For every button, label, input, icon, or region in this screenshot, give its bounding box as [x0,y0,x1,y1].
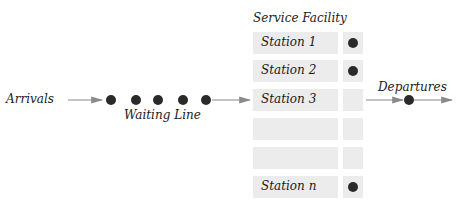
queue-customer-dot [201,95,211,105]
station-box: Station 3 [253,89,338,111]
busy-dot [348,182,358,192]
station-indicator [343,32,363,54]
station-label: Station 3 [261,92,316,106]
queue-customer-dot [106,95,116,105]
station-box [253,147,338,169]
station-label: Station n [261,179,316,193]
station-indicator [343,60,363,82]
waiting-line-label: Waiting Line [124,108,201,122]
service-facility-title: Service Facility [253,11,347,25]
queue-customer-dot [131,95,141,105]
station-indicator [343,147,363,169]
queue-customer-dot [178,95,188,105]
station-indicator [343,176,363,198]
station-indicator [343,89,363,111]
station-box: Station 2 [253,60,338,82]
departing-customer-dot [404,95,414,105]
busy-dot [348,66,358,76]
station-box [253,118,338,140]
departures-label: Departures [378,80,447,94]
station-label: Station 1 [261,35,316,49]
station-indicator [343,118,363,140]
station-box: Station n [253,176,338,198]
arrivals-label: Arrivals [6,92,54,106]
station-box: Station 1 [253,32,338,54]
station-label: Station 2 [261,63,316,77]
busy-dot [348,38,358,48]
queue-customer-dot [153,95,163,105]
